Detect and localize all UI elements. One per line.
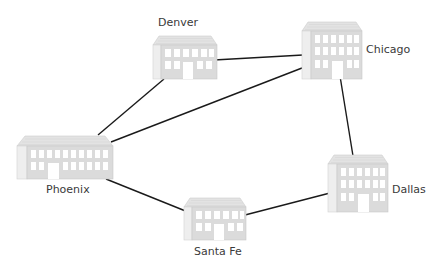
network-diagram bbox=[0, 0, 436, 267]
edge-denver-phoenix bbox=[98, 79, 164, 135]
label-denver: Denver bbox=[158, 16, 198, 29]
edge-chicago-dallas bbox=[340, 76, 353, 156]
building-dallas-icon bbox=[328, 155, 388, 212]
building-santafe-icon bbox=[184, 198, 246, 240]
edge-santafe-dallas bbox=[245, 193, 330, 215]
label-dallas: Dallas bbox=[392, 183, 426, 196]
building-chicago-icon bbox=[302, 22, 362, 79]
label-chicago: Chicago bbox=[366, 43, 410, 56]
edge-phoenix-santafe bbox=[106, 179, 188, 212]
edge-denver-chicago bbox=[214, 55, 303, 60]
building-denver-icon bbox=[153, 36, 217, 79]
label-santafe: Santa Fe bbox=[194, 245, 242, 258]
label-phoenix: Phoenix bbox=[46, 183, 90, 196]
building-phoenix-icon bbox=[17, 136, 113, 179]
